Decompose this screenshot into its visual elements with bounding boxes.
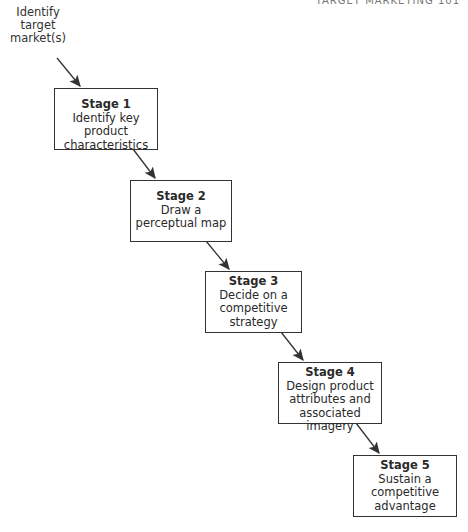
stage-text: strategy xyxy=(230,316,278,330)
arrow-stage3-to-stage4 xyxy=(281,332,303,360)
stage-title: Stage 3 xyxy=(229,275,279,289)
stage-title: Stage 5 xyxy=(380,459,430,473)
stage-text: attributes and xyxy=(289,393,370,407)
stage-text: Sustain a xyxy=(378,473,431,487)
stage-title: Stage 2 xyxy=(156,190,206,204)
stage-text: competitive xyxy=(219,302,287,316)
stage-title: Stage 4 xyxy=(305,366,355,380)
stage-title: Stage 1 xyxy=(81,98,131,112)
stage-4-box: Stage 4 Design product attributes and as… xyxy=(278,362,382,424)
arrow-stage1-to-stage2 xyxy=(133,149,155,178)
arrow-start-to-stage1 xyxy=(57,58,80,86)
stage-5-box: Stage 5 Sustain a competitive advantage xyxy=(353,455,457,517)
stage-1-box: Stage 1 Identify key product characteris… xyxy=(54,88,158,150)
stage-text: perceptual map xyxy=(136,217,227,231)
stage-text: characteristics xyxy=(64,139,148,153)
stage-text: Draw a xyxy=(161,204,202,218)
stage-text: advantage xyxy=(374,500,435,514)
stage-text: Identify key product xyxy=(55,112,157,139)
flow-arrows xyxy=(0,0,468,532)
stage-2-box: Stage 2 Draw a perceptual map xyxy=(130,180,232,242)
stage-3-box: Stage 3 Decide on a competitive strategy xyxy=(205,271,302,333)
stage-text: associated imagery xyxy=(279,407,381,434)
stage-text: Design product xyxy=(286,380,374,394)
stage-text: competitive xyxy=(371,486,439,500)
stage-text: Decide on a xyxy=(219,289,288,303)
arrow-stage2-to-stage3 xyxy=(206,241,229,269)
